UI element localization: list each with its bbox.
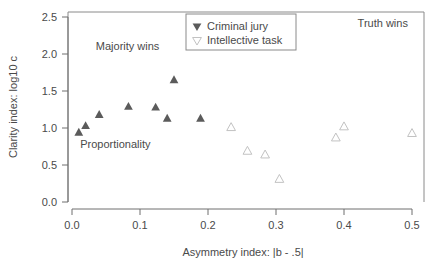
x-tick-label: 0.1 (132, 219, 147, 231)
annotation-majority-wins: Majority wins (96, 40, 160, 52)
x-tick-label: 0.5 (404, 219, 419, 231)
scatter-plot-figure: 0.0 0.5 1.0 1.5 2.0 2.5 Clarity index: l… (0, 0, 438, 268)
x-axis-title: Asymmetry index: |b - .5| (182, 246, 303, 258)
x-tick-label: 0.3 (268, 219, 283, 231)
y-tick-label: 0.0 (42, 196, 57, 208)
x-tick-label: 0.0 (64, 219, 79, 231)
legend-label-intellective-task: Intellective task (207, 34, 283, 46)
y-tick-label: 1.0 (42, 122, 57, 134)
annotation-proportionality: Proportionality (80, 138, 151, 150)
annotation-truth-wins: Truth wins (358, 17, 409, 29)
y-tick-label: 1.5 (42, 85, 57, 97)
y-axis-title: Clarity index: log10 c (7, 55, 19, 158)
y-tick-label: 2.5 (42, 11, 57, 23)
legend-label-criminal-jury: Criminal jury (207, 20, 269, 32)
chart-legend: Criminal jury Intellective task (186, 14, 296, 50)
y-tick-label: 2.0 (42, 48, 57, 60)
y-tick-label: 0.5 (42, 159, 57, 171)
chart-canvas: 0.0 0.5 1.0 1.5 2.0 2.5 Clarity index: l… (0, 0, 438, 268)
x-tick-label: 0.4 (336, 219, 351, 231)
x-tick-label: 0.2 (200, 219, 215, 231)
